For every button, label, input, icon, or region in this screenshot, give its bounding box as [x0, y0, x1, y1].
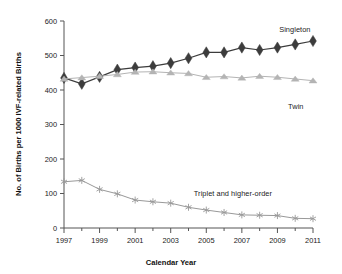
- x-tick-label: 2003: [162, 236, 178, 245]
- x-tick-label: 2001: [127, 236, 143, 245]
- data-point-marker: [97, 186, 103, 193]
- y-tick-label: 300: [45, 120, 57, 129]
- data-point-marker: [167, 57, 174, 68]
- line-chart-canvas: 0100200300400500600199719992001200320052…: [0, 0, 342, 274]
- data-point-marker: [274, 42, 281, 53]
- x-tick-label: 1997: [56, 236, 72, 245]
- y-axis-title: No. of Births per 1000 IVF-related Birth…: [14, 52, 23, 196]
- data-point-marker: [203, 47, 210, 58]
- axes-layer: 0100200300400500600199719992001200320052…: [45, 17, 321, 245]
- series-line: [64, 180, 313, 218]
- chart-figure: 0100200300400500600199719992001200320052…: [0, 0, 342, 274]
- y-tick-label: 500: [45, 51, 57, 60]
- y-tick-label: 200: [45, 155, 57, 164]
- y-tick-label: 0: [53, 224, 57, 233]
- data-point-marker: [221, 47, 228, 58]
- x-tick-label: 2009: [269, 236, 285, 245]
- y-tick-label: 600: [45, 17, 57, 26]
- data-point-marker: [292, 39, 299, 50]
- x-tick-label: 2005: [198, 236, 214, 245]
- x-tick-label: 2011: [305, 236, 321, 245]
- data-point-marker: [114, 190, 120, 197]
- data-point-marker: [238, 42, 245, 53]
- series-label-singleton: Singleton: [279, 25, 310, 34]
- x-tick-label: 1999: [91, 236, 107, 245]
- y-tick-label: 400: [45, 86, 57, 95]
- data-point-marker: [185, 53, 192, 64]
- data-point-marker: [256, 44, 263, 55]
- series-layer: [60, 35, 317, 222]
- x-tick-label: 2007: [234, 236, 250, 245]
- x-axis-title: Calendar Year: [0, 258, 342, 267]
- series-label-triplet-and-higher-order: Triplet and higher-order: [194, 189, 272, 198]
- series-singleton: [61, 35, 317, 89]
- y-tick-label: 100: [45, 189, 57, 198]
- series-label-twin: Twin: [288, 102, 303, 111]
- series-triplet-and-higher-order: [61, 177, 316, 222]
- data-point-marker: [310, 35, 317, 46]
